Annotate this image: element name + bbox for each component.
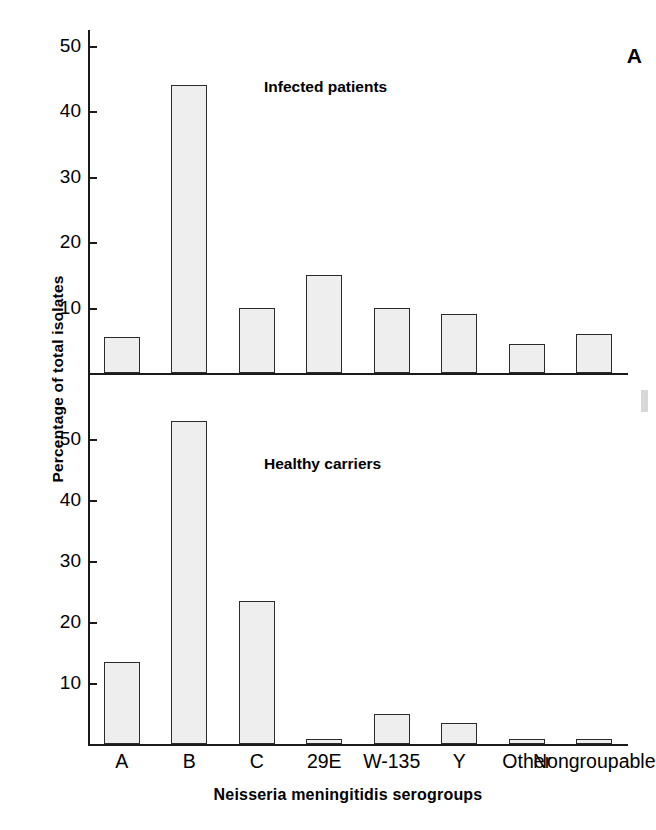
tick-mark	[88, 439, 97, 441]
bar-top-b	[171, 85, 207, 373]
tick-mark	[88, 111, 97, 113]
category-label-y: Y	[453, 752, 466, 772]
page-edge-artifact	[641, 390, 648, 412]
bar-top-w-135	[374, 308, 410, 374]
category-label-nongroupable: Nongroupable	[533, 752, 656, 772]
bar-top-c	[239, 308, 275, 374]
category-label-c: C	[250, 752, 264, 772]
bar-bottom-nongroupable	[576, 739, 612, 744]
panel-letter-label: A	[627, 44, 642, 68]
tick-mark	[88, 242, 97, 244]
bar-bottom-c	[239, 601, 275, 744]
category-label-b: B	[183, 752, 196, 772]
tick-mark	[88, 177, 97, 179]
tick-label: 10	[60, 673, 81, 692]
bar-top-nongroupable	[576, 334, 612, 373]
tick-label: 50	[60, 36, 81, 55]
x-axis-title: Neisseria meningitidis serogroups	[88, 786, 608, 804]
tick-label: 20	[60, 232, 81, 251]
chart-panel-healthy-carriers: 1020304050 Healthy carriers	[88, 375, 628, 746]
tick-mark	[88, 46, 97, 48]
bar-bottom-y	[441, 723, 477, 744]
x-axis-line-bottom	[88, 744, 628, 746]
y-axis-line-top	[88, 30, 90, 375]
tick-mark	[88, 308, 97, 310]
bar-bottom-b	[171, 421, 207, 744]
bar-top-29e	[306, 275, 342, 373]
category-label-a: A	[115, 752, 128, 772]
bar-top-a	[104, 337, 140, 373]
bar-bottom-other	[509, 739, 545, 744]
tick-mark	[88, 500, 97, 502]
bar-bottom-29e	[306, 739, 342, 744]
bar-bottom-a	[104, 662, 140, 744]
tick-label: 40	[60, 490, 81, 509]
tick-mark	[88, 622, 97, 624]
tick-mark	[88, 561, 97, 563]
panel-annotation-infected-patients: Infected patients	[264, 78, 387, 96]
tick-mark	[88, 683, 97, 685]
panel-annotation-healthy-carriers: Healthy carriers	[264, 455, 381, 473]
chart-panel-infected-patients: 1020304050 Infected patients	[88, 30, 628, 375]
tick-label: 30	[60, 167, 81, 186]
bar-top-y	[441, 314, 477, 373]
category-label-29e: 29E	[307, 752, 342, 772]
bar-top-other	[509, 344, 545, 373]
tick-label: 20	[60, 612, 81, 631]
tick-label: 30	[60, 551, 81, 570]
tick-label: 10	[60, 298, 81, 317]
tick-label: 40	[60, 101, 81, 120]
category-label-w-135: W-135	[363, 752, 420, 772]
tick-label: 50	[60, 429, 81, 448]
bar-bottom-w-135	[374, 714, 410, 745]
